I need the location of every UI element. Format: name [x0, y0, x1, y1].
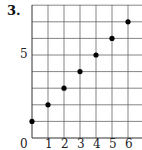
x-tick-label: 0: [20, 137, 28, 150]
grid: [32, 5, 142, 138]
x-tick-label: 5: [109, 137, 117, 150]
x-tick-label: 1: [45, 137, 53, 150]
data-point: [29, 119, 34, 124]
x-tick-label: 3: [77, 137, 85, 150]
x-tick-label: 6: [125, 137, 133, 150]
x-tick-label: 2: [61, 137, 69, 150]
data-point: [125, 19, 130, 24]
data-point: [61, 86, 66, 91]
data-point: [77, 69, 82, 74]
data-point: [45, 102, 50, 107]
y-tick-label: 5: [20, 47, 28, 61]
data-point: [109, 36, 114, 41]
data-point: [93, 52, 98, 57]
x-tick-label: 4: [93, 137, 101, 150]
scatter-plot: [0, 0, 142, 150]
